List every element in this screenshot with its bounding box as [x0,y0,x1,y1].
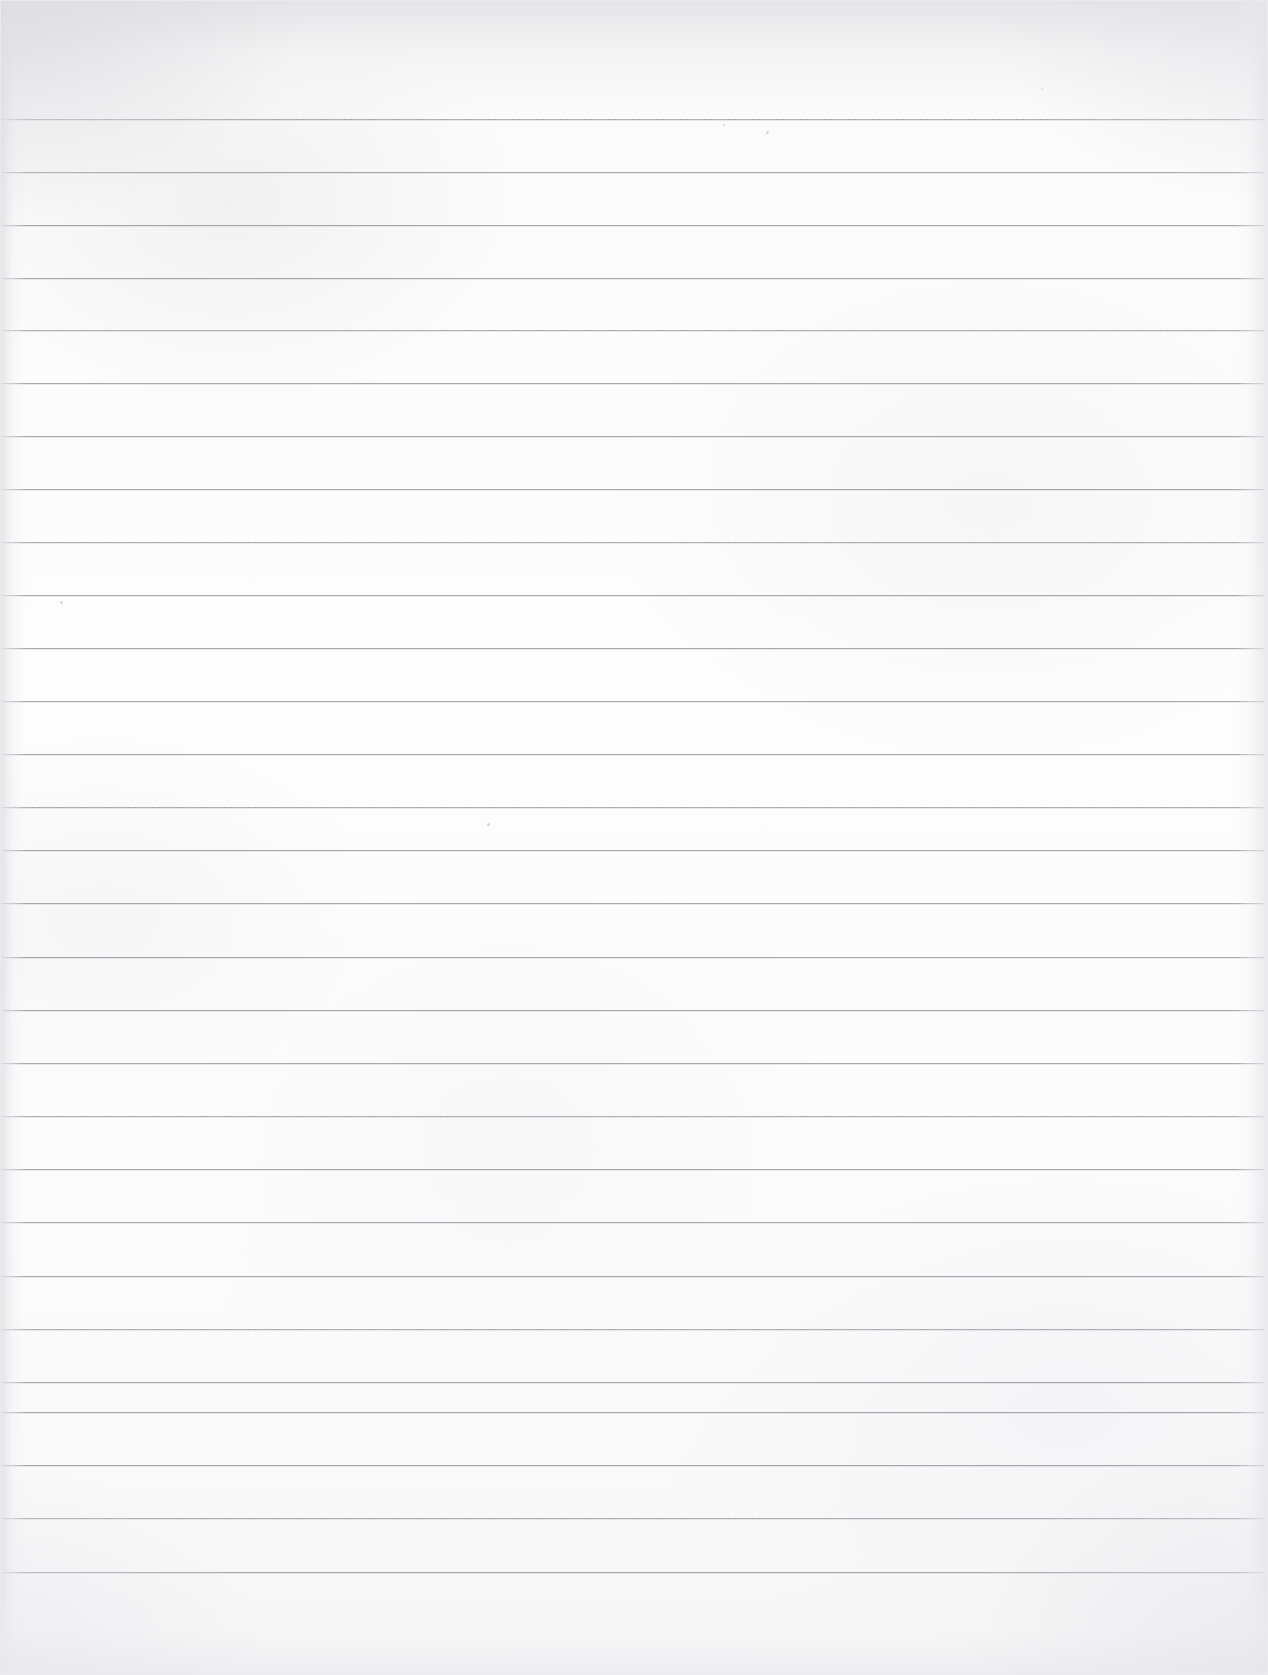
rule-line-23 [2,1276,1264,1277]
rule-line-11 [2,648,1264,649]
rule-line-6 [2,383,1264,384]
scan-speck-3 [487,823,490,826]
rule-line-25 [2,1382,1264,1383]
scan-speck-1 [766,131,769,134]
rule-line-17 [2,957,1264,958]
rule-line-22 [2,1222,1264,1223]
rule-line-29 [2,1572,1264,1573]
rule-line-13 [2,754,1264,755]
scan-speck-4 [723,124,725,126]
rule-line-21 [2,1169,1264,1170]
rule-line-9 [2,542,1264,543]
rule-line-14 [2,807,1264,808]
rule-line-8 [2,489,1264,490]
rule-line-27 [2,1465,1264,1466]
rule-line-24 [2,1329,1264,1330]
rule-line-4 [2,278,1264,279]
rule-line-19 [2,1063,1264,1064]
rule-line-26 [2,1412,1264,1413]
rule-line-2 [2,172,1264,173]
rule-line-3 [2,225,1264,226]
rule-line-20 [2,1116,1264,1117]
ruled-lines-layer [0,0,1268,1675]
rule-line-28 [2,1518,1264,1519]
rule-line-18 [2,1010,1264,1011]
rule-line-5 [2,330,1264,331]
rule-line-10 [2,595,1264,596]
rule-line-12 [2,701,1264,702]
rule-line-7 [2,436,1264,437]
rule-line-16 [2,903,1264,904]
scanned-page [0,0,1268,1675]
rule-line-1 [2,119,1264,120]
rule-line-15 [2,850,1264,851]
scan-speck-5 [1041,88,1043,90]
scan-speck-2 [60,601,63,604]
